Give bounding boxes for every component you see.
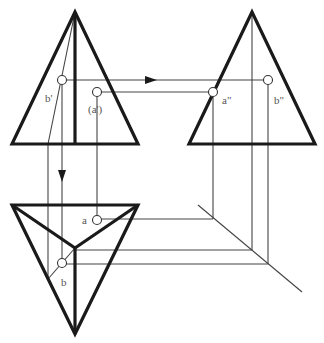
label-a-side: a" — [222, 94, 231, 106]
label-a-front: (a') — [88, 103, 103, 116]
point-a-top — [93, 216, 102, 225]
arrow-right-icon — [145, 76, 157, 84]
front-view — [12, 12, 138, 144]
point-b-side — [264, 76, 273, 85]
point-b-top — [58, 259, 67, 268]
label-b-top: b — [61, 276, 67, 288]
point-b-front — [58, 76, 67, 85]
projection-diagram: b' (a') a" b" a b — [0, 0, 324, 343]
label-a-top: a — [82, 214, 87, 226]
label-b-side: b" — [274, 94, 284, 106]
label-b-front: b' — [45, 92, 53, 104]
projection-lines — [48, 12, 302, 292]
point-a-side — [209, 88, 218, 97]
point-a-front — [93, 88, 102, 97]
miter-line-45deg — [198, 205, 302, 292]
arrow-down-icon — [58, 170, 66, 182]
top-view — [12, 205, 138, 334]
